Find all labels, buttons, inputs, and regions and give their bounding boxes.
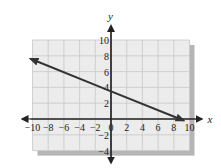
svg-text:8: 8 — [104, 51, 109, 62]
svg-text:10: 10 — [99, 35, 109, 46]
svg-text:6: 6 — [104, 67, 109, 78]
svg-text:−4: −4 — [98, 146, 109, 157]
svg-text:0: 0 — [109, 122, 114, 133]
svg-text:10: 10 — [185, 122, 195, 133]
coordinate-plane: −10−8−6−4−20246810−4−2246810 x y — [0, 0, 221, 168]
svg-text:2: 2 — [124, 122, 129, 133]
svg-text:8: 8 — [171, 122, 176, 133]
x-axis-label: x — [207, 113, 213, 125]
svg-text:−10: −10 — [25, 122, 41, 133]
svg-text:4: 4 — [140, 122, 145, 133]
svg-text:2: 2 — [104, 98, 109, 109]
svg-text:6: 6 — [156, 122, 161, 133]
svg-text:−2: −2 — [98, 130, 109, 141]
svg-text:−4: −4 — [74, 122, 85, 133]
svg-text:−6: −6 — [59, 122, 70, 133]
svg-text:−8: −8 — [43, 122, 54, 133]
y-axis-label: y — [107, 10, 113, 22]
